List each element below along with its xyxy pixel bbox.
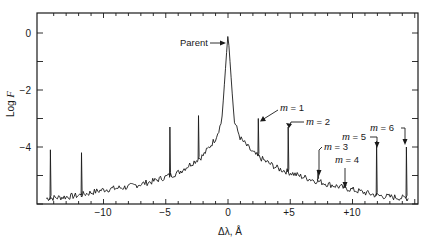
x-tick-label-minus5: −5: [159, 207, 171, 218]
m4-label: m = 4: [335, 153, 359, 165]
m2-label: m = 2: [306, 115, 330, 127]
x-tick-label-minus10: −10: [95, 207, 112, 218]
m1-label: m = 1: [280, 101, 304, 113]
x-tick-label-plus10: +10: [344, 207, 361, 218]
y-tick-label-minus4: −4: [20, 142, 32, 153]
parent-label: Parent: [180, 37, 208, 48]
x-axis-ticks: [54, 13, 415, 204]
x-axis-title: Δλ, Å: [218, 225, 242, 237]
y-tick-label-minus2: −2: [20, 85, 32, 96]
x-tick-label-0: 0: [225, 207, 231, 218]
spectrum-line: [46, 37, 408, 202]
spectrum-chart: 0 −2 −4 −10 −5 0 +5 +10 Δλ, Å Log F Pare…: [0, 0, 428, 243]
x-tick-label-plus5: +5: [283, 207, 295, 218]
y-tick-label-0: 0: [25, 28, 31, 39]
y-axis-title: Log F: [4, 91, 16, 117]
y-axis-ticks: [37, 33, 418, 204]
m5-label: m = 5: [342, 130, 366, 142]
m6-label: m = 6: [370, 121, 394, 133]
